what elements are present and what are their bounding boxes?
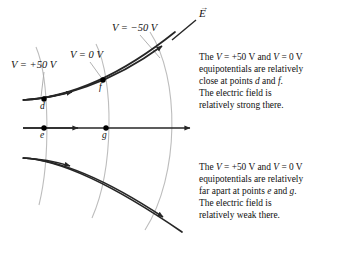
lower-field-line-arrow-end [23,158,163,217]
physics-diagram-figure: → E V = +50 V V = 0 V V = −50 V d f e g … [0,0,337,253]
annotation-weak-line-5: relatively weak there. [199,210,329,222]
point-label-f: f [99,83,102,93]
e-vector-leader [172,20,196,40]
leader-plus50 [41,72,44,97]
point-label-d: d [40,102,45,112]
lower-field-line [23,158,182,232]
equipotential-label-plus50: V = +50 V [11,60,56,71]
electric-field-vector-label: → E [199,8,206,19]
annotation-weak-line-2: equipotentials are relatively [199,174,329,186]
annotation-weak-line-4: The electric field is [199,198,329,210]
annotation-strong-line-1: The V = +50 V and V = 0 V [199,52,329,64]
annotation-weak-line-3: far apart at points e and g. [199,186,329,198]
annotation-weak-field: The V = +50 V and V = 0 V equipotentials… [199,162,329,222]
point-label-e: e [40,131,44,141]
annotation-strong-line-4: The electric field is [199,88,329,100]
vector-arrow-accent: → [200,4,208,12]
annotation-strong-line-3: close at points d and f. [199,76,329,88]
annotation-weak-line-1: The V = +50 V and V = 0 V [199,162,329,174]
annotation-strong-line-5: relatively strong there. [199,100,329,112]
equipotential-label-minus50: V = −50 V [112,23,157,34]
annotation-strong-line-2: equipotentials are relatively [199,64,329,76]
equipotential-arc-minus50 [145,32,172,230]
annotation-strong-field: The V = +50 V and V = 0 V equipotentials… [199,52,329,112]
equipotential-label-zero: V = 0 V [70,50,103,61]
leader-zero [90,62,103,80]
point-label-g: g [102,131,107,141]
